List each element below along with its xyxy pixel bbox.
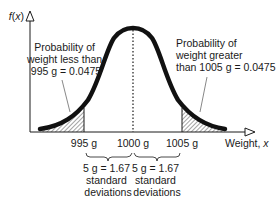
right-annotation-leader [200, 77, 207, 112]
left-brace-label: 5 g = 1.67 standard deviations [83, 162, 133, 198]
y-axis-label: f(x) [9, 10, 24, 22]
tick-label-1000: 1000 g [117, 137, 149, 149]
tick-label-1005: 1005 g [166, 137, 198, 149]
left-annotation: Probability of weight less than 995 g = … [26, 41, 105, 77]
y-axis-arrow-icon [26, 11, 34, 21]
right-brace [134, 153, 180, 161]
tick-label-995: 995 g [71, 137, 97, 149]
left-brace [86, 153, 132, 161]
x-axis-arrow-icon [245, 128, 255, 136]
normal-distribution-diagram: f(x) Probability of weight less than 995… [0, 0, 280, 209]
left-annotation-leader [62, 80, 70, 112]
right-annotation: Probability of weight greater than 1005 … [175, 37, 276, 73]
x-axis-label: Weight, x [225, 137, 269, 149]
right-brace-label: 5 g = 1.67 standard deviations [132, 162, 182, 198]
